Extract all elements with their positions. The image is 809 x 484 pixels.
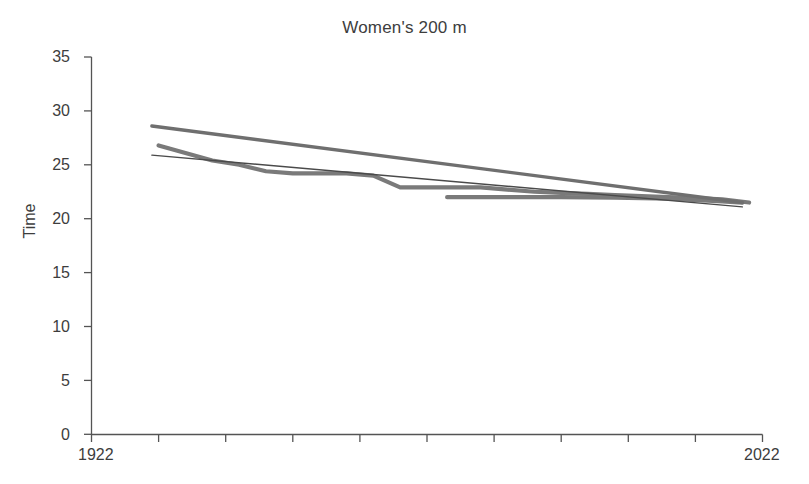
chart-figure: Women's 200 m Time 35 30 25 20 15 10 5 0… xyxy=(0,0,809,484)
series-world-record xyxy=(159,145,749,202)
plot-area xyxy=(0,0,809,484)
axes-group xyxy=(84,57,763,442)
series-group xyxy=(152,126,749,207)
